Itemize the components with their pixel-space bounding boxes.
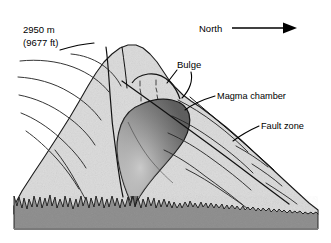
compass-north-label: North xyxy=(199,23,222,34)
basement-texture xyxy=(14,196,318,230)
cross-section-canvas: 2950 m (9677 ft) North Bulge Magma chamb… xyxy=(0,0,331,243)
bulge-label: Bulge xyxy=(177,59,201,70)
magma-chamber-label: Magma chamber xyxy=(217,91,286,101)
fault-zone-label: Fault zone xyxy=(261,121,304,131)
basement-rock xyxy=(14,195,318,230)
volcano-cross-section-figure: 2950 m (9677 ft) North Bulge Magma chamb… xyxy=(0,0,331,243)
elevation-metric-label: 2950 m xyxy=(23,24,55,35)
basement-base-line xyxy=(14,228,318,230)
elevation-imperial-label: (9677 ft) xyxy=(23,37,58,48)
